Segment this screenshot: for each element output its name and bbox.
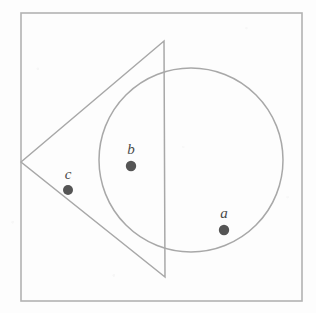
point-b: b [126, 141, 136, 171]
point-dot-c [63, 185, 73, 195]
point-dot-a [219, 225, 229, 235]
point-c: c [63, 166, 73, 195]
point-label-a: a [220, 205, 228, 221]
geometry-figure: b c a [0, 0, 316, 313]
point-a: a [219, 205, 229, 235]
point-dot-b [126, 161, 136, 171]
triangle [21, 41, 165, 277]
point-label-c: c [65, 166, 72, 182]
bounding-square [21, 13, 302, 301]
point-label-b: b [127, 141, 135, 157]
circle [99, 68, 283, 252]
geometry-figure-svg: b c a [0, 0, 316, 313]
